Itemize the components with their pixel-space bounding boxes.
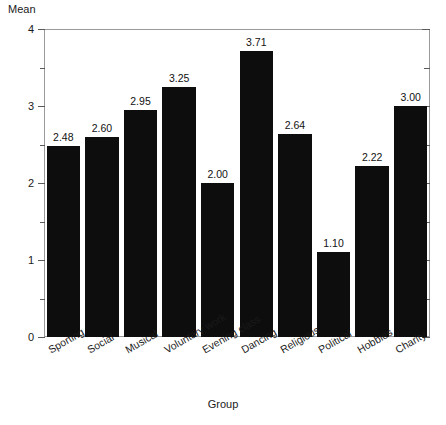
y-axis-tick-label: 3 xyxy=(8,100,34,112)
bar-value-label: 2.64 xyxy=(285,119,305,131)
bar-value-label: 2.48 xyxy=(53,131,73,143)
y-axis-tick-major xyxy=(38,106,45,107)
bar xyxy=(47,146,81,337)
bar-value-label: 3.00 xyxy=(400,91,420,103)
bar xyxy=(317,252,351,337)
bar-value-label: 3.25 xyxy=(169,72,189,84)
bar xyxy=(394,106,428,337)
y-axis-tick-major xyxy=(38,183,45,184)
y-axis-tick-minor xyxy=(40,68,45,69)
bar-value-label: 2.60 xyxy=(92,122,112,134)
bar xyxy=(124,110,158,337)
x-axis-title: Group xyxy=(0,398,446,410)
y-axis-tick-major xyxy=(38,337,45,338)
y-axis-tick-major xyxy=(38,29,45,30)
y-axis-tick-minor xyxy=(40,145,45,146)
bar-value-label: 2.00 xyxy=(207,168,227,180)
y-axis-tick-major-right xyxy=(422,29,430,30)
bar xyxy=(162,87,196,337)
bar xyxy=(355,166,389,337)
bar-value-label: 2.22 xyxy=(362,151,382,163)
bar-value-label: 3.71 xyxy=(246,36,266,48)
y-axis-tick-label: 4 xyxy=(8,23,34,35)
y-axis-tick-minor-right xyxy=(424,68,430,69)
y-axis-tick-major xyxy=(38,260,45,261)
bar-value-label: 2.95 xyxy=(130,95,150,107)
y-axis-tick-minor xyxy=(40,222,45,223)
y-axis-tick-minor xyxy=(40,299,45,300)
bar xyxy=(240,51,274,337)
bar-chart: Mean 01234 2.482.602.953.252.003.712.641… xyxy=(0,0,446,425)
y-axis-title: Mean xyxy=(8,3,36,15)
y-axis-tick-label: 1 xyxy=(8,254,34,266)
bar xyxy=(278,134,312,337)
bar-value-label: 1.10 xyxy=(323,237,343,249)
bar xyxy=(85,137,119,337)
y-axis-tick-label: 2 xyxy=(8,177,34,189)
y-axis-tick-label: 0 xyxy=(8,331,34,343)
